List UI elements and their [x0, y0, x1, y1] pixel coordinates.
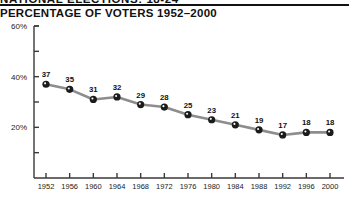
x-axis-label: 1972	[156, 182, 173, 191]
chart-svg: 20%40%60% 195219561960196419681972197619…	[0, 20, 349, 205]
data-point-highlight	[68, 87, 70, 89]
data-point-marker	[184, 111, 191, 118]
data-point-label: 17	[278, 121, 287, 130]
data-point-marker	[137, 101, 144, 108]
data-point-marker	[113, 93, 120, 100]
data-point-highlight	[328, 130, 330, 132]
data-point-marker	[303, 129, 310, 136]
chart-title: PERCENTAGE OF VOTERS 1952–2000	[0, 6, 349, 20]
data-point-label: 21	[231, 111, 240, 120]
x-axis-label: 1980	[203, 182, 220, 191]
data-point-label: 23	[207, 106, 216, 115]
data-point-highlight	[115, 95, 117, 97]
data-point-marker	[232, 121, 239, 128]
data-point-highlight	[233, 123, 235, 125]
data-point-marker	[66, 86, 73, 93]
data-point-highlight	[139, 103, 141, 105]
data-point-marker	[326, 129, 333, 136]
x-axis-label: 1992	[274, 182, 291, 191]
chart-page: NATIONAL ELECTIONS: 18-24 PERCENTAGE OF …	[0, 0, 349, 205]
x-axis-label: 2000	[322, 182, 339, 191]
data-point-label: 29	[136, 91, 145, 100]
data-point-marker	[161, 103, 168, 110]
x-axis-label: 1964	[109, 182, 126, 191]
data-point-marker	[255, 126, 262, 133]
data-point-highlight	[257, 128, 259, 130]
data-point-label: 19	[255, 116, 264, 125]
x-axis-label: 1984	[227, 182, 244, 191]
data-point-label: 18	[326, 118, 335, 127]
data-point-marker	[208, 116, 215, 123]
x-axis-label: 1960	[85, 182, 102, 191]
data-point-marker	[90, 96, 97, 103]
data-point-label: 25	[184, 101, 193, 110]
data-point-highlight	[186, 113, 188, 115]
data-point-highlight	[281, 133, 283, 135]
data-labels: 37353132292825232119171818	[42, 70, 335, 130]
data-point-highlight	[91, 98, 93, 100]
x-axis-label: 1976	[180, 182, 197, 191]
y-axis-label: 60%	[11, 22, 27, 31]
data-point-highlight	[162, 105, 164, 107]
y-axis-label: 20%	[11, 123, 27, 132]
data-point-label: 31	[89, 85, 98, 94]
y-axis-label: 40%	[11, 73, 27, 82]
x-axis: 1952195619601964196819721976198019841988…	[34, 173, 344, 191]
data-point-label: 32	[113, 83, 122, 92]
x-axis-label: 1996	[298, 182, 315, 191]
data-point-label: 28	[160, 93, 169, 102]
x-axis-label: 1968	[132, 182, 149, 191]
x-axis-label: 1988	[251, 182, 268, 191]
data-point-highlight	[304, 130, 306, 132]
data-point-marker	[279, 131, 286, 138]
x-axis-label: 1956	[61, 182, 78, 191]
data-point-marker	[42, 81, 49, 88]
data-point-highlight	[210, 118, 212, 120]
data-point-label: 37	[42, 70, 51, 79]
data-point-label: 18	[302, 118, 311, 127]
data-point-label: 35	[65, 75, 74, 84]
y-axis: 20%40%60%	[11, 22, 39, 178]
line-chart: 20%40%60% 195219561960196419681972197619…	[0, 20, 349, 205]
data-point-highlight	[44, 82, 46, 84]
x-axis-label: 1952	[38, 182, 55, 191]
